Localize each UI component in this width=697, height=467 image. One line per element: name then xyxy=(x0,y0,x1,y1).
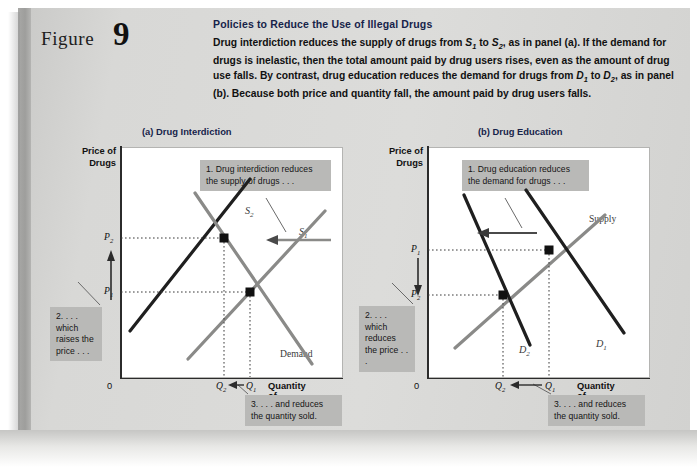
panel-b-graphics xyxy=(0,0,697,467)
panel-b-price-fall-arrow xyxy=(414,258,422,296)
panel-b-curve-d1 xyxy=(526,190,624,333)
panel-b-callout-1-leader xyxy=(505,198,522,228)
figure-root: Figure 9 Policies to Reduce the Use of I… xyxy=(0,0,697,467)
panel-b-curve-d2 xyxy=(464,195,530,345)
panel-b-curve-supply xyxy=(455,215,605,348)
panel-b-equilibrium-old xyxy=(545,246,554,255)
panel-b-shift-arrow xyxy=(477,228,537,238)
page-bottom-fade xyxy=(0,430,697,467)
panel-b-equilibrium-new xyxy=(499,291,508,300)
panel-b-quantity-fall-arrow xyxy=(510,381,542,389)
panel-b-callout-2-leader xyxy=(392,283,413,304)
